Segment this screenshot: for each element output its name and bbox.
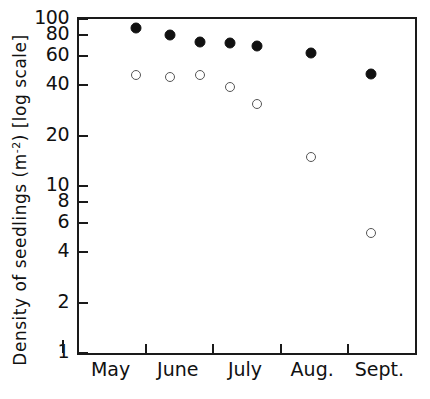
data-point-filled-circles-4 <box>252 40 263 51</box>
data-point-filled-circles-6 <box>366 68 377 79</box>
y-tick-8 <box>79 201 88 203</box>
y-tick-80 <box>79 34 88 36</box>
data-point-filled-circles-1 <box>164 30 175 41</box>
y-tick-40 <box>79 84 88 86</box>
data-point-open-circles-5 <box>306 152 316 162</box>
origin-stub-mark <box>62 340 64 353</box>
y-tick-label-6: 6 <box>57 210 69 232</box>
x-tick-label-may: May <box>91 358 130 380</box>
data-point-filled-circles-0 <box>131 23 142 34</box>
data-point-open-circles-4 <box>252 99 262 109</box>
x-tick-4 <box>347 344 349 353</box>
x-tick-label-group: MayJuneJulyAug.Sept. <box>77 358 417 398</box>
x-tick-label-aug: Aug. <box>291 358 334 380</box>
data-point-open-circles-6 <box>366 228 376 238</box>
data-point-filled-circles-2 <box>194 36 205 47</box>
data-point-open-circles-2 <box>195 70 205 80</box>
x-tick-label-june: June <box>157 358 198 380</box>
y-tick-label-8: 8 <box>57 189 69 211</box>
x-tick-3 <box>280 344 282 353</box>
y-tick-label-60: 60 <box>46 43 69 65</box>
y-tick-label-4: 4 <box>57 239 69 261</box>
data-point-open-circles-0 <box>131 70 141 80</box>
data-point-filled-circles-3 <box>225 37 236 48</box>
y-tick-10 <box>79 185 88 187</box>
y-tick-100 <box>79 18 88 20</box>
data-point-open-circles-3 <box>225 82 235 92</box>
data-point-open-circles-1 <box>165 72 175 82</box>
y-tick-20 <box>79 135 88 137</box>
y-tick-2 <box>79 302 88 304</box>
data-point-filled-circles-5 <box>305 47 316 58</box>
y-tick-label-20: 20 <box>46 123 69 145</box>
x-tick-label-sept: Sept. <box>355 358 404 380</box>
y-tick-6 <box>79 222 88 224</box>
y-tick-label-40: 40 <box>46 72 69 94</box>
y-tick-1 <box>79 352 88 354</box>
x-tick-1 <box>145 344 147 353</box>
y-tick-label-group: 100806040201086421 <box>0 0 77 399</box>
y-tick-60 <box>79 55 88 57</box>
y-tick-4 <box>79 251 88 253</box>
data-point-layer <box>79 19 415 353</box>
x-tick-2 <box>212 344 214 353</box>
figure-root: Density of seedlings (m-2) [log scale] 1… <box>0 0 430 399</box>
x-tick-label-july: July <box>228 358 262 380</box>
y-tick-label-80: 80 <box>46 22 69 44</box>
plot-area <box>77 17 417 355</box>
y-tick-label-2: 2 <box>57 290 69 312</box>
